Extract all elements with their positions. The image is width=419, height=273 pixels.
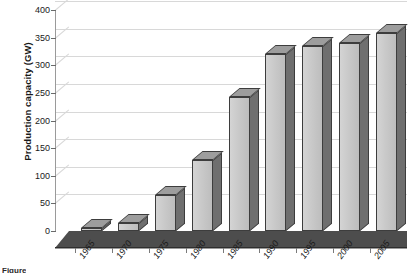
bar-front-face	[81, 228, 102, 231]
bar-front-face	[376, 33, 397, 231]
bar-front-face	[302, 46, 323, 231]
y-axis-title: Production capacity (GW)	[22, 17, 33, 187]
y-axis-tick-label: 200	[35, 116, 50, 126]
bar-side-face	[323, 38, 332, 231]
y-axis-tick-mark	[51, 203, 56, 204]
bar	[192, 160, 213, 231]
gridline	[55, 29, 407, 30]
gridline-segment	[69, 1, 407, 2]
x-axis-tick-mark	[149, 248, 150, 253]
x-axis-tick-mark	[223, 248, 224, 253]
x-axis-tick-mark	[296, 248, 297, 253]
y-axis-tick-mark	[51, 148, 56, 149]
bar	[229, 97, 250, 231]
y-axis-tick-mark	[51, 121, 56, 122]
x-axis-tick-mark	[333, 248, 334, 253]
bar-side-face	[360, 36, 369, 231]
bar	[339, 43, 360, 231]
y-axis-tick-label: 350	[35, 33, 50, 43]
bar	[265, 54, 286, 231]
x-axis-tick-mark	[75, 248, 76, 253]
bar-front-face	[229, 97, 250, 231]
figure-caption: Figure	[2, 266, 26, 273]
bar-side-face	[286, 47, 295, 231]
x-axis-tick-mark	[370, 248, 371, 253]
bar-side-face	[397, 26, 406, 231]
bar-front-face	[265, 54, 286, 231]
bar-front-face	[192, 160, 213, 231]
gridline-segment	[69, 29, 407, 30]
y-axis-tick-mark	[51, 38, 56, 39]
bar	[302, 46, 323, 231]
bar	[376, 33, 397, 231]
y-axis-tick-label: 150	[35, 143, 50, 153]
bar	[118, 223, 139, 231]
y-axis-tick-label: 300	[35, 60, 50, 70]
bar-front-face	[155, 195, 176, 231]
gridline	[55, 1, 407, 2]
y-axis-tick-mark	[51, 93, 56, 94]
bar	[81, 228, 102, 231]
y-axis-tick-label: 100	[35, 171, 50, 181]
bar-front-face	[339, 43, 360, 231]
x-axis-tick-mark	[186, 248, 187, 253]
y-axis-tick-mark	[51, 65, 56, 66]
bar	[155, 195, 176, 231]
y-axis-tick-mark	[51, 231, 56, 232]
y-axis-tick-label: 250	[35, 88, 50, 98]
bar-side-face	[250, 89, 259, 231]
bar-front-face	[118, 223, 139, 231]
bar-side-face	[213, 153, 222, 231]
plot-area: 050100150200250300350400 196519701975198…	[55, 8, 407, 232]
y-axis-tick-mark	[51, 10, 56, 11]
x-axis-tick-mark	[112, 248, 113, 253]
x-axis-tick-mark	[259, 248, 260, 253]
y-axis-tick-label: 400	[35, 5, 50, 15]
y-axis-tick-label: 50	[40, 198, 50, 208]
figure-container: Production capacity (GW) 050100150200250…	[0, 0, 419, 273]
y-axis-tick-mark	[51, 176, 56, 177]
y-axis-tick-label: 0	[45, 226, 50, 236]
